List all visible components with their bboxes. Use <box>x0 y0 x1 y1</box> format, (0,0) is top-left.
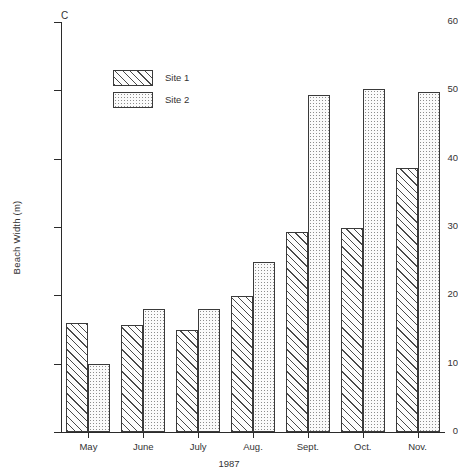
bar-oct-site-2 <box>363 89 385 432</box>
beach-width-bar-chart: C 0102030405060 MayJuneJulyAug.Sept.Oct.… <box>0 0 458 476</box>
x-axis-tick-label: July <box>190 441 207 452</box>
legend-label: Site 1 <box>165 72 189 83</box>
x-axis-tick-label: June <box>133 441 154 452</box>
bar-oct-site-1 <box>341 228 363 432</box>
y-axis-tick <box>54 432 61 433</box>
x-axis-tick <box>308 432 309 438</box>
bar-aug-site-1 <box>231 296 253 432</box>
x-axis-tick-label: May <box>79 441 97 452</box>
bar-june-site-2 <box>143 309 165 432</box>
x-axis-tick <box>143 432 144 438</box>
y-axis-tick <box>54 90 61 91</box>
x-axis-tick-label: Sept. <box>297 441 319 452</box>
x-axis-title: 1987 <box>0 458 458 469</box>
bar-may-site-2 <box>88 364 110 432</box>
bar-may-site-1 <box>66 323 88 432</box>
bar-nov-site-2 <box>418 92 440 432</box>
bar-sept-site-2 <box>308 95 330 432</box>
bar-nov-site-1 <box>396 168 418 432</box>
y-axis-tick <box>54 159 61 160</box>
bar-july-site-1 <box>176 330 198 433</box>
x-axis-tick <box>418 432 419 438</box>
x-axis-tick <box>253 432 254 438</box>
legend-swatch <box>113 70 153 86</box>
legend-label: Site 2 <box>165 94 189 105</box>
y-axis-tick-label: 60 <box>416 15 458 26</box>
panel-label: C <box>61 10 68 21</box>
x-axis-tick <box>363 432 364 438</box>
y-axis-line <box>61 22 62 433</box>
x-axis-tick <box>88 432 89 438</box>
y-axis-title: Beach Width (m) <box>11 178 22 298</box>
x-axis-tick-label: Oct. <box>354 441 371 452</box>
y-axis-tick <box>54 22 61 23</box>
bar-aug-site-2 <box>253 262 275 432</box>
bar-sept-site-1 <box>286 232 308 432</box>
x-axis-tick-label: Aug. <box>243 441 263 452</box>
legend-swatch <box>113 92 153 108</box>
y-axis-tick <box>54 227 61 228</box>
y-axis-tick <box>54 295 61 296</box>
x-axis-tick <box>198 432 199 438</box>
x-axis-tick-label: Nov. <box>408 441 427 452</box>
y-axis-tick <box>54 364 61 365</box>
bar-july-site-2 <box>198 309 220 432</box>
bar-june-site-1 <box>121 325 143 432</box>
